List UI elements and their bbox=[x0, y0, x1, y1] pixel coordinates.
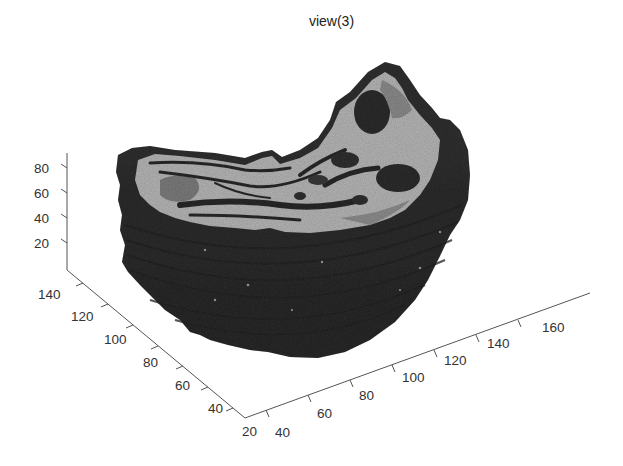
svg-text:20: 20 bbox=[34, 236, 49, 251]
volume-render bbox=[116, 62, 470, 358]
svg-text:20: 20 bbox=[242, 424, 257, 439]
svg-text:80: 80 bbox=[34, 161, 49, 176]
svg-text:160: 160 bbox=[542, 320, 565, 335]
svg-text:60: 60 bbox=[175, 378, 190, 393]
svg-text:40: 40 bbox=[208, 401, 223, 416]
svg-text:60: 60 bbox=[317, 406, 332, 421]
z-tick-labels: 80 60 40 20 bbox=[34, 161, 49, 251]
plot-area: 80 60 40 20 140 120 100 80 60 40 20 40 6… bbox=[0, 0, 623, 466]
svg-text:100: 100 bbox=[104, 332, 127, 347]
svg-text:80: 80 bbox=[359, 388, 374, 403]
svg-text:40: 40 bbox=[34, 211, 49, 226]
svg-text:140: 140 bbox=[487, 336, 510, 351]
svg-text:40: 40 bbox=[275, 425, 290, 440]
svg-text:140: 140 bbox=[38, 287, 61, 302]
svg-text:80: 80 bbox=[143, 355, 158, 370]
svg-text:100: 100 bbox=[402, 370, 425, 385]
svg-text:120: 120 bbox=[444, 353, 467, 368]
svg-text:60: 60 bbox=[34, 186, 49, 201]
svg-text:120: 120 bbox=[71, 309, 94, 324]
